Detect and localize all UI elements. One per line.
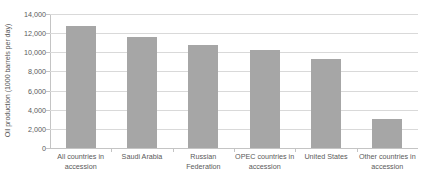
x-axis-tick-label: Russian Federation	[173, 152, 234, 171]
bar-chart: Oil production (1000 barrels per day) 14…	[0, 0, 430, 188]
y-axis-title-text: Oil production (1000 barrels per day)	[4, 23, 13, 136]
x-axis-tick-label: All countries in accession	[50, 152, 111, 171]
y-axis-tick-label: 2,000	[28, 124, 46, 133]
y-axis-tickmark	[46, 71, 50, 72]
x-axis-tick-label: Saudi Arabia	[111, 152, 172, 162]
bar-series	[50, 14, 418, 148]
y-axis-tick-label: 10,000	[24, 48, 46, 57]
x-axis-tickmark	[295, 148, 296, 152]
y-axis-tick-label: 12,000	[24, 29, 46, 38]
x-axis-tick-label: United States	[295, 152, 356, 162]
bar[interactable]	[127, 37, 157, 148]
bar[interactable]	[188, 45, 218, 148]
x-axis-tickmark	[234, 148, 235, 152]
y-axis-tick-label: 6,000	[28, 86, 46, 95]
y-axis-tick-labels: 14,00012,00010,0008,0006,0004,0002,0000	[14, 9, 48, 153]
y-axis-tickmark	[46, 33, 50, 34]
y-axis-tickmark	[46, 52, 50, 53]
x-axis-tickmark	[173, 148, 174, 152]
y-axis-tickmark	[46, 91, 50, 92]
y-axis-tickmark	[46, 148, 50, 149]
bar[interactable]	[66, 26, 96, 148]
y-axis-tickmark	[46, 110, 50, 111]
x-axis-tickmark	[357, 148, 358, 152]
bar[interactable]	[372, 119, 402, 148]
x-axis-tick-labels: All countries in accessionSaudi ArabiaRu…	[50, 152, 418, 186]
y-axis-tick-label: 8,000	[28, 67, 46, 76]
bar[interactable]	[311, 59, 341, 148]
y-axis-tick-label: 14,000	[24, 10, 46, 19]
plot-area	[50, 14, 418, 148]
y-axis-tick-label: 4,000	[28, 105, 46, 114]
y-axis-tickmark	[46, 129, 50, 130]
bar[interactable]	[250, 50, 280, 148]
x-axis-tick-label: Other countries in accession	[357, 152, 418, 171]
y-axis-tickmark	[46, 14, 50, 15]
x-axis-tickmark	[111, 148, 112, 152]
x-axis-tick-label: OPEC countries in accession	[234, 152, 295, 171]
